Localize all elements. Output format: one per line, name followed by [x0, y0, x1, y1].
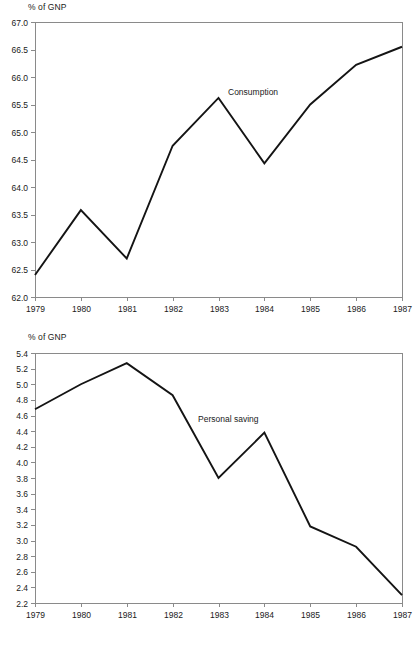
data-series-line	[35, 363, 402, 595]
y-tick-label: 5.0	[16, 380, 28, 390]
y-tick-label: 65.0	[11, 128, 28, 138]
y-tick-label: 2.4	[16, 583, 28, 593]
x-tick-label: 1987	[393, 304, 412, 314]
saving-plot: 2.22.42.62.83.03.23.43.63.84.04.24.44.64…	[0, 330, 420, 653]
x-tick-label: 1984	[255, 610, 274, 620]
y-tick-label: 5.2	[16, 364, 28, 374]
x-tick-label: 1985	[301, 304, 320, 314]
consumption-chart: % of GNP 62.062.563.063.564.064.565.065.…	[0, 0, 420, 322]
y-tick-label: 2.2	[16, 599, 28, 609]
y-tick-label: 63.5	[11, 210, 28, 220]
y-tick-label: 4.8	[16, 395, 28, 405]
y-tick-label: 66.0	[11, 73, 28, 83]
x-tick-label: 1986	[347, 610, 366, 620]
x-tick-label: 1980	[72, 304, 91, 314]
x-tick-label: 1986	[347, 304, 366, 314]
y-tick-label: 2.6	[16, 567, 28, 577]
x-tick-label: 1982	[164, 304, 183, 314]
x-tick-label: 1983	[210, 304, 229, 314]
y-tick-label: 64.5	[11, 155, 28, 165]
y-tick-label: 4.2	[16, 442, 28, 452]
x-tick-label: 1981	[118, 610, 137, 620]
y-tick-label: 62.5	[11, 265, 28, 275]
y-tick-label: 3.8	[16, 474, 28, 484]
y-tick-label: 66.5	[11, 45, 28, 55]
y-tick-label: 3.0	[16, 536, 28, 546]
y-tick-label: 5.4	[16, 349, 28, 359]
y-tick-label: 65.5	[11, 100, 28, 110]
x-tick-label: 1984	[255, 304, 274, 314]
saving-chart: % of GNP 2.22.42.62.83.03.23.43.63.84.04…	[0, 330, 420, 653]
y-tick-label: 4.6	[16, 411, 28, 421]
y-tick-label: 62.0	[11, 293, 28, 303]
x-tick-label: 1979	[26, 304, 45, 314]
series-annotation-label: Personal saving	[198, 414, 259, 424]
y-tick-label: 67.0	[11, 18, 28, 28]
x-tick-label: 1983	[210, 610, 229, 620]
x-tick-label: 1980	[72, 610, 91, 620]
y-tick-label: 2.8	[16, 552, 28, 562]
data-series-line	[35, 47, 402, 275]
y-tick-label: 63.0	[11, 238, 28, 248]
consumption-plot: 62.062.563.063.564.064.565.065.566.066.5…	[0, 0, 420, 322]
x-tick-label: 1979	[26, 610, 45, 620]
x-tick-label: 1987	[393, 610, 412, 620]
y-tick-label: 4.0	[16, 458, 28, 468]
series-annotation-label: Consumption	[228, 87, 278, 97]
y-tick-label: 3.4	[16, 505, 28, 515]
x-tick-label: 1982	[164, 610, 183, 620]
x-tick-label: 1985	[301, 610, 320, 620]
x-tick-label: 1981	[118, 304, 137, 314]
y-tick-label: 3.6	[16, 489, 28, 499]
y-tick-label: 64.0	[11, 183, 28, 193]
y-tick-label: 3.2	[16, 520, 28, 530]
y-tick-label: 4.4	[16, 427, 28, 437]
